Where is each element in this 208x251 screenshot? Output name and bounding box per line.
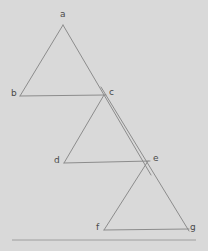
vertex-label-f: f [96,223,99,232]
vertex-label-b: b [11,89,17,98]
edge-a-b [20,25,63,96]
edge-b-c [20,95,106,96]
edge-e-f [104,161,148,230]
triangle-chain-svg [0,0,208,251]
edge-d-e [64,161,150,163]
edge-c-d [64,95,104,163]
edges-group [20,25,189,231]
vertex-label-g: g [190,223,196,232]
figure-canvas: a b c d e f g [0,0,208,251]
vertex-label-e: e [153,154,159,163]
vertex-label-a: a [60,10,66,19]
edge-f-g [104,229,189,230]
edge-c-g [101,87,189,231]
vertex-label-d: d [54,156,60,165]
vertex-label-c: c [109,88,114,97]
edge-a-e [63,25,151,175]
